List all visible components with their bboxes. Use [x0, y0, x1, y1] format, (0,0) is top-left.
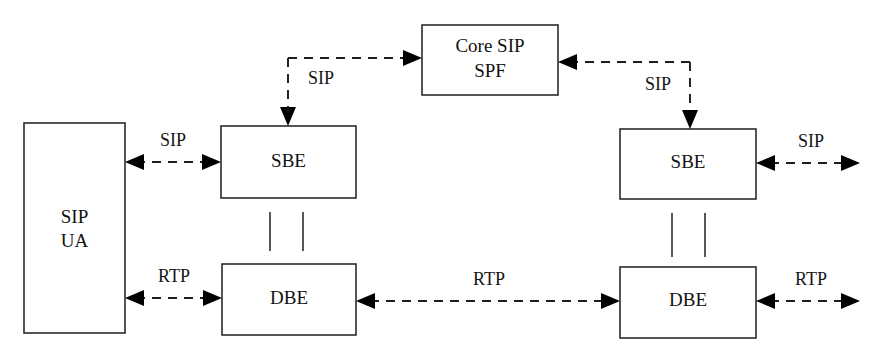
edge-right-dbe-external: RTP	[756, 269, 860, 309]
arrow-head-right	[203, 290, 222, 306]
edge-label-rtp: RTP	[473, 269, 505, 289]
arrow-head-left	[756, 293, 775, 309]
core-sip-spf-label-line1: Core SIP	[455, 35, 524, 56]
edge-sip-ua-to-left-dbe: RTP	[125, 266, 222, 306]
arrow-head-left	[356, 293, 375, 309]
arrow-head-left	[125, 154, 144, 170]
arrow-head-left	[558, 54, 577, 70]
right-sbe-label: SBE	[671, 151, 706, 172]
arrow-head-down	[682, 110, 698, 129]
network-diagram: SIP UA SBE DBE Core SIP SPF SBE DBE	[0, 0, 880, 359]
left-sbe-label: SBE	[271, 150, 306, 171]
arrow-head-left	[125, 290, 144, 306]
right-sbe-dbe-connector	[672, 213, 705, 257]
arrow-head-right	[841, 293, 860, 309]
edge-label-sip: SIP	[160, 130, 186, 150]
arrow-head-right	[841, 155, 860, 171]
node-left-sbe[interactable]: SBE	[221, 126, 356, 198]
edge-label-rtp: RTP	[795, 269, 827, 289]
arrow-head-right	[202, 154, 221, 170]
left-sbe-dbe-connector	[270, 212, 303, 251]
edge-right-sbe-external: SIP	[756, 131, 860, 171]
edge-sip-ua-to-left-sbe: SIP	[125, 130, 221, 170]
arrow-head-down	[280, 107, 296, 126]
edge-label-rtp: RTP	[158, 266, 190, 286]
edge-left-dbe-to-right-dbe: RTP	[356, 269, 620, 309]
sip-ua-label-line2: UA	[61, 230, 89, 251]
edge-label-sip: SIP	[798, 131, 824, 151]
node-left-dbe[interactable]: DBE	[222, 264, 356, 335]
edge-label-sip: SIP	[645, 74, 671, 94]
arrow-head-right	[601, 293, 620, 309]
arrow-head-left	[756, 155, 775, 171]
sip-ua-box[interactable]	[24, 123, 125, 333]
diagram-canvas: SIP UA SBE DBE Core SIP SPF SBE DBE	[0, 0, 880, 359]
edge-left-sbe-to-core-sip-spf: SIP	[280, 50, 422, 126]
node-core-sip-spf[interactable]: Core SIP SPF	[422, 25, 558, 95]
left-dbe-label: DBE	[270, 287, 308, 308]
right-dbe-label: DBE	[669, 289, 707, 310]
node-right-sbe[interactable]: SBE	[620, 129, 756, 199]
edge-core-sip-spf-to-right-sbe: SIP	[558, 54, 698, 129]
core-sip-spf-label-line2: SPF	[474, 60, 506, 81]
arrow-head-right	[403, 50, 422, 66]
node-right-dbe[interactable]: DBE	[620, 267, 756, 338]
node-sip-ua[interactable]: SIP UA	[24, 123, 125, 333]
sip-ua-label-line1: SIP	[61, 206, 88, 227]
edge-label-sip: SIP	[308, 68, 334, 88]
